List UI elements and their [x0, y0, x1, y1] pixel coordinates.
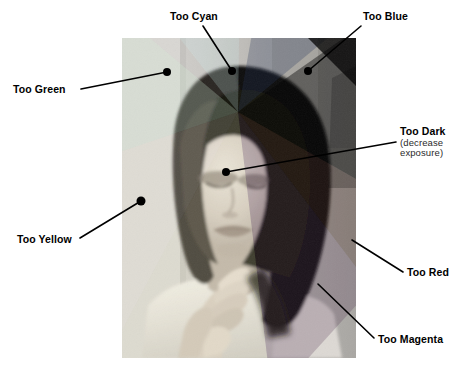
annotation-text-too-yellow: Too Yellow [17, 233, 72, 245]
annotation-label-too-blue: Too Blue [363, 11, 408, 23]
annotation-label-too-magenta: Too Magenta [378, 334, 443, 346]
portrait-photograph [122, 38, 356, 358]
annotation-text-too-red: Too Red [407, 266, 449, 278]
annotation-label-too-yellow: Too Yellow [17, 234, 72, 246]
annotation-text-too-blue: Too Blue [363, 10, 408, 22]
annotation-label-too-dark: Too Dark (decrease exposure) [400, 126, 446, 159]
annotation-text-too-cyan: Too Cyan [170, 10, 218, 22]
annotation-text-too-magenta: Too Magenta [378, 333, 443, 345]
photograph-rendering [122, 38, 356, 358]
annotation-label-too-red: Too Red [407, 267, 449, 279]
annotation-text-too-green: Too Green [13, 83, 66, 95]
annotation-text-too-dark: Too Dark [400, 125, 446, 137]
color-correction-figure: Too Cyan Too Blue Too Green Too Dark (de… [0, 0, 469, 373]
annotation-label-too-green: Too Green [13, 84, 66, 96]
annotation-label-too-cyan: Too Cyan [170, 11, 218, 23]
leader-line-too-red [352, 240, 403, 272]
annotation-subtext-too-dark-line2: exposure) [400, 148, 446, 159]
